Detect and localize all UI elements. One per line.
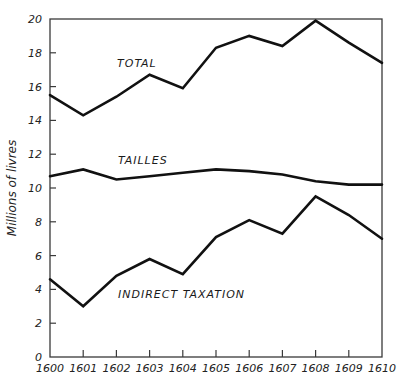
series-line-total bbox=[50, 21, 382, 116]
y-axis: 02468101214161820 bbox=[28, 13, 56, 364]
y-tick-label: 10 bbox=[28, 182, 42, 195]
y-tick-label: 8 bbox=[35, 216, 42, 229]
x-tick-label: 1607 bbox=[268, 362, 296, 375]
x-tick-label: 1609 bbox=[335, 362, 363, 375]
x-tick-label: 1610 bbox=[368, 362, 396, 375]
y-tick-label: 16 bbox=[28, 81, 42, 94]
x-tick-label: 1603 bbox=[136, 362, 164, 375]
x-axis: 1600160116021603160416051606160716081609… bbox=[36, 350, 396, 375]
x-tick-label: 1602 bbox=[102, 362, 130, 375]
series-label-indirect-taxation: INDIRECT TAXATION bbox=[118, 288, 245, 301]
line-chart: 02468101214161820 1600160116021603160416… bbox=[0, 0, 404, 389]
x-tick-label: 1605 bbox=[202, 362, 230, 375]
series-label-total: TOTAL bbox=[117, 57, 157, 70]
x-tick-label: 1604 bbox=[169, 362, 197, 375]
y-tick-label: 14 bbox=[28, 114, 42, 127]
series-line-tailles bbox=[50, 169, 382, 184]
plot-border bbox=[50, 19, 382, 357]
y-tick-label: 2 bbox=[35, 317, 42, 330]
y-tick-label: 12 bbox=[28, 148, 42, 161]
y-tick-label: 18 bbox=[28, 47, 42, 60]
x-tick-label: 1608 bbox=[302, 362, 330, 375]
series-lines bbox=[50, 21, 382, 307]
y-tick-label: 20 bbox=[28, 13, 42, 26]
y-axis-title: Millions of livres bbox=[5, 140, 19, 236]
series-label-tailles: TAILLES bbox=[118, 154, 168, 167]
x-tick-label: 1600 bbox=[36, 362, 64, 375]
plot-frame bbox=[50, 19, 382, 357]
y-tick-label: 6 bbox=[35, 250, 42, 263]
x-tick-label: 1601 bbox=[69, 362, 97, 375]
x-tick-label: 1606 bbox=[235, 362, 263, 375]
y-tick-label: 4 bbox=[35, 283, 42, 296]
